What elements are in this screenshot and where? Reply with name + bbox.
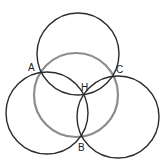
left-circle [6,72,88,154]
point-label-h: H [81,82,88,93]
point-label-a: A [28,62,35,73]
point-label-c: C [116,64,123,75]
johnson-circles-diagram: A C H B [0,0,161,166]
point-label-b: B [78,142,85,153]
